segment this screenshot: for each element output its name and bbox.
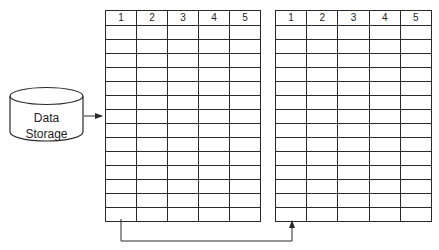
table-cell	[400, 152, 431, 166]
table-row	[106, 194, 261, 208]
table-cell	[338, 96, 369, 110]
table-cell	[230, 208, 261, 222]
table-cell	[230, 166, 261, 180]
table-cell	[400, 54, 431, 68]
table-cell	[168, 152, 199, 166]
table-row	[276, 124, 432, 138]
table-cell	[276, 54, 307, 68]
table-cell	[369, 26, 400, 40]
table-cell	[307, 40, 338, 54]
table-cell	[338, 180, 369, 194]
table-cell	[199, 208, 230, 222]
table-cell	[369, 166, 400, 180]
table-row	[276, 194, 432, 208]
table-cell	[400, 180, 431, 194]
table-cell	[168, 68, 199, 82]
column-header: 2	[307, 11, 338, 26]
column-header: 5	[230, 11, 261, 26]
table-cell	[369, 180, 400, 194]
left-table: 1 2 3 4 5	[105, 10, 261, 222]
table-cell	[230, 40, 261, 54]
table-row	[276, 54, 432, 68]
table-cell	[307, 124, 338, 138]
table-cell	[400, 26, 431, 40]
table-cell	[137, 96, 168, 110]
table-cell	[307, 152, 338, 166]
table-cell	[168, 26, 199, 40]
table-cell	[106, 180, 137, 194]
table-cell	[168, 180, 199, 194]
table-cell	[137, 68, 168, 82]
table-cell	[307, 180, 338, 194]
table-row	[276, 166, 432, 180]
table-cell	[307, 26, 338, 40]
table-cell	[369, 110, 400, 124]
table-cell	[137, 110, 168, 124]
table-cell	[276, 194, 307, 208]
table-cell	[199, 40, 230, 54]
table-cell	[369, 82, 400, 96]
table-row	[276, 40, 432, 54]
table-cell	[168, 54, 199, 68]
column-header: 3	[338, 11, 369, 26]
table-cell	[307, 110, 338, 124]
table-cell	[106, 138, 137, 152]
table-cell	[338, 124, 369, 138]
table-cell	[230, 194, 261, 208]
table-row	[276, 208, 432, 222]
table-cell	[338, 68, 369, 82]
table-cell	[276, 68, 307, 82]
table-row	[106, 26, 261, 40]
table-cell	[106, 152, 137, 166]
table-row	[106, 138, 261, 152]
table-to-table-connector-arrow	[121, 219, 292, 241]
table-cell	[338, 54, 369, 68]
table-row	[276, 82, 432, 96]
table-cell	[137, 194, 168, 208]
column-header: 3	[168, 11, 199, 26]
table-cell	[276, 124, 307, 138]
data-storage-label-line1: Data	[10, 110, 83, 126]
table-row	[106, 208, 261, 222]
table-row	[106, 54, 261, 68]
table-row	[106, 40, 261, 54]
table-cell	[137, 152, 168, 166]
table-row	[106, 82, 261, 96]
table-cell	[307, 166, 338, 180]
table-cell	[369, 124, 400, 138]
table-row	[106, 152, 261, 166]
table-cell	[168, 208, 199, 222]
table-cell	[276, 110, 307, 124]
table-cell	[137, 124, 168, 138]
table-cell	[199, 124, 230, 138]
table-cell	[199, 152, 230, 166]
table-cell	[307, 54, 338, 68]
table-cell	[307, 82, 338, 96]
table-cell	[400, 110, 431, 124]
table-cell	[230, 138, 261, 152]
column-header: 1	[276, 11, 307, 26]
right-table-body	[276, 26, 432, 222]
table-cell	[137, 54, 168, 68]
table-cell	[199, 180, 230, 194]
table-cell	[338, 166, 369, 180]
table-cell	[199, 82, 230, 96]
table-cell	[199, 110, 230, 124]
table-cell	[230, 152, 261, 166]
table-cell	[137, 82, 168, 96]
table-cell	[199, 138, 230, 152]
table-header-row: 1 2 3 4 5	[106, 11, 261, 26]
table-cell	[106, 166, 137, 180]
column-header: 4	[369, 11, 400, 26]
table-cell	[338, 40, 369, 54]
table-cell	[400, 96, 431, 110]
table-header-row: 1 2 3 4 5	[276, 11, 432, 26]
table-cell	[369, 96, 400, 110]
table-row	[276, 26, 432, 40]
column-header: 2	[137, 11, 168, 26]
table-cell	[400, 40, 431, 54]
table-cell	[338, 26, 369, 40]
data-storage-label: Data Storage	[10, 110, 83, 142]
table-cell	[199, 26, 230, 40]
table-cell	[106, 208, 137, 222]
